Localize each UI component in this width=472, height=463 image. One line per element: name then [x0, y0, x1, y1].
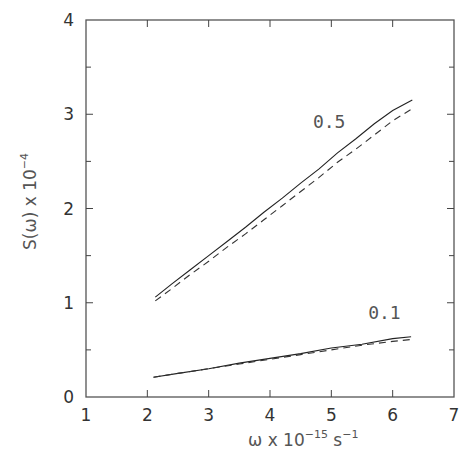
x-axis-title-sup2: −1: [342, 428, 358, 441]
annotations: 0.50.1: [313, 111, 401, 322]
y-tick-label: 4: [63, 10, 74, 30]
y-tick-label: 3: [63, 104, 74, 124]
x-tick-label: 2: [142, 405, 153, 425]
x-tick-label: 4: [265, 405, 276, 425]
curve-annotation: 0.5: [313, 111, 346, 132]
y-axis-title-base: S(ω) x 10: [20, 169, 40, 250]
x-tick-label: 5: [326, 405, 337, 425]
y-axis-title: S(ω) x 10−4: [18, 153, 40, 250]
x-tick-label: 3: [203, 405, 214, 425]
x-axis-title: ω x 10−15 s−1: [248, 428, 358, 450]
x-tick-label: 6: [387, 405, 398, 425]
x-axis-title-mid: s: [328, 430, 342, 450]
tick-labels: 123456701234: [63, 10, 459, 425]
series-line-0-5-dashed: [155, 109, 412, 301]
series-group: [154, 100, 413, 377]
series-line-0-5-solid: [155, 100, 412, 297]
x-axis-title-base: ω x 10: [248, 430, 305, 450]
curve-annotation: 0.1: [368, 302, 401, 323]
y-tick-label: 1: [63, 293, 74, 313]
y-tick-label: 0: [63, 387, 74, 407]
x-axis-title-sup1: −15: [305, 428, 328, 441]
x-tick-label: 7: [449, 405, 460, 425]
y-tick-label: 2: [63, 199, 74, 219]
chart: 123456701234 0.50.1 ω x 10−15 s−1 S(ω) x…: [0, 0, 472, 463]
ticks: [86, 20, 454, 397]
series-line-0-1-dashed: [154, 340, 412, 378]
plot-frame: [86, 20, 454, 397]
x-tick-label: 1: [81, 405, 92, 425]
y-axis-title-sup: −4: [18, 153, 31, 169]
